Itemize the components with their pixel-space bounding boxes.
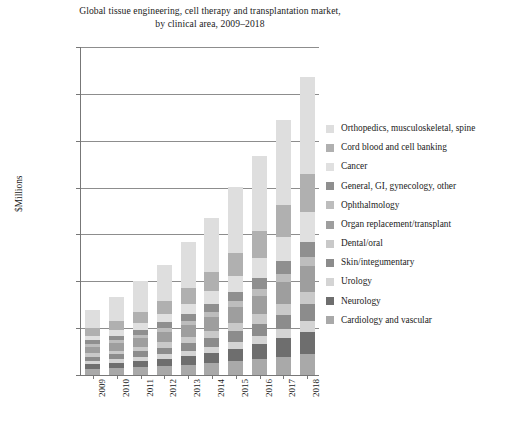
bar-segment[interactable] bbox=[85, 310, 100, 329]
legend-item[interactable]: Skin/integumentary bbox=[326, 253, 521, 272]
legend-item[interactable]: Organ replacement/transplant bbox=[326, 215, 521, 234]
bar-segment[interactable] bbox=[157, 301, 172, 314]
bar-segment[interactable] bbox=[181, 325, 196, 337]
bar-segment[interactable] bbox=[181, 288, 196, 304]
legend-item[interactable]: Cardiology and vascular bbox=[326, 311, 521, 330]
bar-column[interactable] bbox=[228, 187, 243, 375]
bar-segment[interactable] bbox=[300, 242, 315, 257]
bar-segment[interactable] bbox=[252, 258, 267, 278]
bar-series-layer bbox=[81, 47, 319, 375]
bar-segment[interactable] bbox=[228, 331, 243, 342]
bar-column[interactable] bbox=[133, 281, 148, 375]
bar-segment[interactable] bbox=[181, 365, 196, 375]
bar-segment[interactable] bbox=[109, 321, 124, 330]
bar-segment[interactable] bbox=[300, 212, 315, 242]
bar-segment[interactable] bbox=[300, 292, 315, 305]
bar-segment[interactable] bbox=[157, 314, 172, 322]
bar-segment[interactable] bbox=[204, 363, 219, 375]
bar-segment[interactable] bbox=[300, 354, 315, 375]
bar-segment[interactable] bbox=[204, 331, 219, 338]
bar-segment[interactable] bbox=[300, 304, 315, 321]
bar-segment[interactable] bbox=[228, 276, 243, 292]
bar-segment[interactable] bbox=[109, 297, 124, 321]
bar-segment[interactable] bbox=[300, 321, 315, 331]
bar-segment[interactable] bbox=[300, 77, 315, 174]
bar-segment[interactable] bbox=[252, 359, 267, 375]
bar-segment[interactable] bbox=[181, 242, 196, 288]
legend-item[interactable]: Orthopedics, musculoskeletal, spine bbox=[326, 119, 521, 138]
bar-segment[interactable] bbox=[181, 343, 196, 351]
bar-segment[interactable] bbox=[157, 366, 172, 375]
bar-segment[interactable] bbox=[157, 265, 172, 302]
bar-segment[interactable] bbox=[85, 328, 100, 335]
bar-segment[interactable] bbox=[300, 257, 315, 267]
bar-segment[interactable] bbox=[252, 231, 267, 258]
bar-column[interactable] bbox=[109, 297, 124, 375]
bar-segment[interactable] bbox=[181, 314, 196, 321]
bar-segment[interactable] bbox=[157, 332, 172, 342]
bar-segment[interactable] bbox=[204, 218, 219, 272]
bar-segment[interactable] bbox=[276, 329, 291, 338]
bar-segment[interactable] bbox=[300, 332, 315, 354]
legend-item[interactable]: Ophthalmology bbox=[326, 196, 521, 215]
bar-segment[interactable] bbox=[252, 296, 267, 315]
bar-segment[interactable] bbox=[204, 272, 219, 291]
legend-item[interactable]: Urology bbox=[326, 273, 521, 292]
bar-segment[interactable] bbox=[204, 353, 219, 364]
bar-segment[interactable] bbox=[276, 274, 291, 282]
bar-segment[interactable] bbox=[300, 174, 315, 213]
bar-segment[interactable] bbox=[276, 205, 291, 238]
bar-segment[interactable] bbox=[252, 156, 267, 231]
bar-column[interactable] bbox=[300, 77, 315, 375]
legend-item[interactable]: General, GI, gynecology, other bbox=[326, 177, 521, 196]
bar-segment[interactable] bbox=[204, 317, 219, 331]
bar-segment[interactable] bbox=[133, 367, 148, 375]
bar-segment[interactable] bbox=[228, 361, 243, 375]
bar-segment[interactable] bbox=[109, 368, 124, 375]
bar-segment[interactable] bbox=[228, 292, 243, 301]
bar-segment[interactable] bbox=[133, 338, 148, 347]
bar-segment[interactable] bbox=[109, 343, 124, 350]
bar-column[interactable] bbox=[252, 156, 267, 375]
bar-column[interactable] bbox=[204, 218, 219, 375]
bar-segment[interactable] bbox=[133, 312, 148, 323]
bar-segment[interactable] bbox=[252, 289, 267, 296]
legend-item-label: Urology bbox=[341, 277, 372, 286]
bar-segment[interactable] bbox=[276, 304, 291, 315]
bar-segment[interactable] bbox=[276, 261, 291, 274]
bar-segment[interactable] bbox=[228, 187, 243, 253]
bar-segment[interactable] bbox=[276, 282, 291, 304]
bar-segment[interactable] bbox=[204, 304, 219, 312]
legend-item[interactable]: Neurology bbox=[326, 292, 521, 311]
bar-segment[interactable] bbox=[204, 291, 219, 304]
bar-segment[interactable] bbox=[276, 315, 291, 330]
bar-segment[interactable] bbox=[252, 278, 267, 289]
legend-item[interactable]: Cord blood and cell banking bbox=[326, 138, 521, 157]
bar-column[interactable] bbox=[276, 120, 291, 375]
bar-segment[interactable] bbox=[204, 338, 219, 347]
bar-segment[interactable] bbox=[181, 304, 196, 314]
bar-segment[interactable] bbox=[276, 338, 291, 357]
bar-segment[interactable] bbox=[276, 237, 291, 261]
bar-segment[interactable] bbox=[228, 307, 243, 323]
bar-segment[interactable] bbox=[300, 266, 315, 291]
bar-segment[interactable] bbox=[276, 120, 291, 204]
bar-segment[interactable] bbox=[133, 281, 148, 312]
bar-segment[interactable] bbox=[157, 359, 172, 367]
bar-segment[interactable] bbox=[133, 323, 148, 330]
bar-segment[interactable] bbox=[228, 349, 243, 362]
bar-segment[interactable] bbox=[252, 336, 267, 344]
bar-segment[interactable] bbox=[181, 356, 196, 365]
bar-segment[interactable] bbox=[157, 348, 172, 355]
bar-segment[interactable] bbox=[252, 314, 267, 323]
bar-segment[interactable] bbox=[228, 323, 243, 331]
bar-segment[interactable] bbox=[276, 357, 291, 375]
bar-segment[interactable] bbox=[252, 344, 267, 359]
bar-segment[interactable] bbox=[228, 253, 243, 276]
bar-column[interactable] bbox=[181, 242, 196, 375]
legend-item[interactable]: Dental/oral bbox=[326, 234, 521, 253]
bar-column[interactable] bbox=[85, 310, 100, 375]
bar-column[interactable] bbox=[157, 265, 172, 375]
bar-segment[interactable] bbox=[252, 324, 267, 337]
legend-item[interactable]: Cancer bbox=[326, 157, 521, 176]
